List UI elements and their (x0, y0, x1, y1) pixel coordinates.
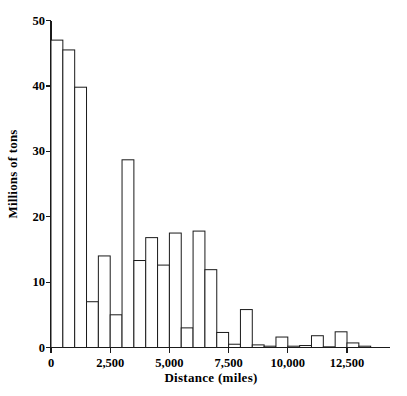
x-tick-label: 0 (48, 357, 54, 370)
histogram-figure: Millions of tons 01020304050 02,5005,000… (0, 0, 407, 396)
x-tick-label: 10,000 (271, 357, 305, 370)
x-axis-tick-labels: 02,5005,0007,50010,00012,500 (0, 0, 407, 396)
x-axis-title: Distance (miles) (51, 370, 371, 386)
x-tick-label: 12,500 (330, 357, 364, 370)
x-tick-label: 5,000 (155, 357, 183, 370)
x-tick-label: 2,500 (96, 357, 124, 370)
x-tick-label: 7,500 (215, 357, 243, 370)
